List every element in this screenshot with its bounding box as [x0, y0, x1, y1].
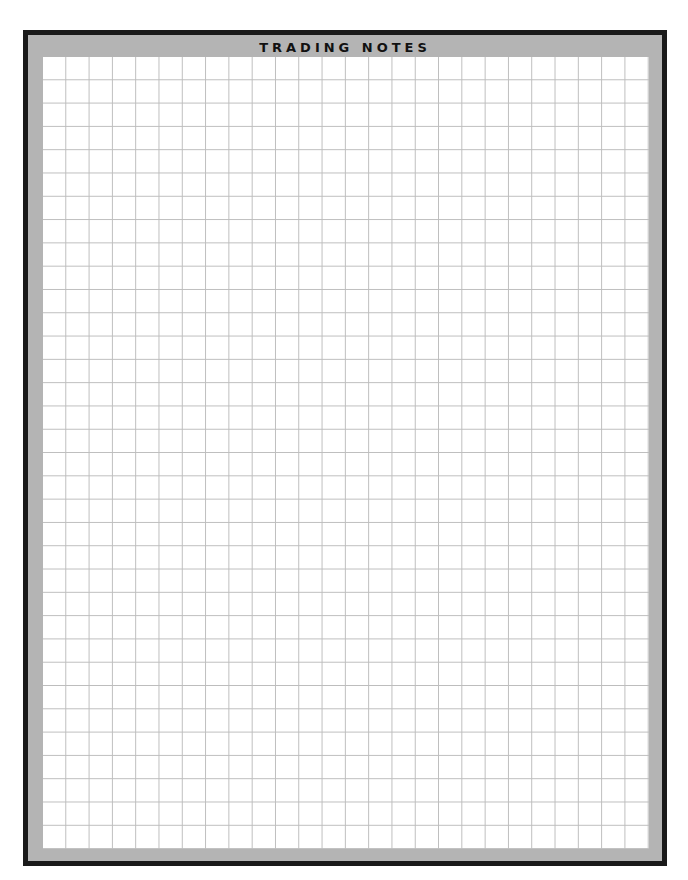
page-title: TRADING NOTES [28, 38, 662, 58]
notes-frame: TRADING NOTES [23, 30, 667, 866]
grid-paper [43, 57, 649, 849]
